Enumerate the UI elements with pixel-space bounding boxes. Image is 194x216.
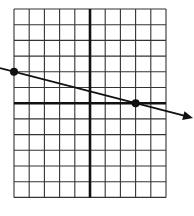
axes [14, 9, 166, 197]
data-point [132, 99, 140, 107]
line-segment [0, 68, 185, 116]
coordinate-graph [0, 0, 194, 216]
arrowhead-icon [182, 111, 193, 120]
data-point [10, 68, 18, 76]
